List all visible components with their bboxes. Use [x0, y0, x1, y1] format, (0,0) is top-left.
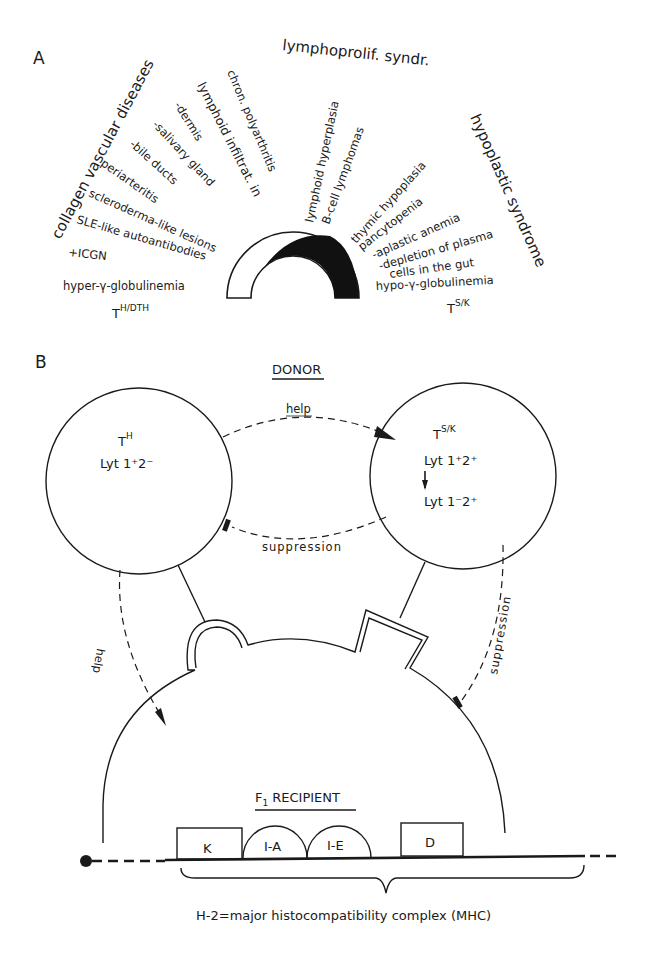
mhc-region-d: D [401, 823, 463, 856]
item-icgn: +ICGN [68, 245, 108, 263]
diagram-canvas: A collagen vascular diseases lymphoproli… [0, 0, 658, 959]
panel-a-label: A [33, 48, 45, 68]
receptor-round [195, 627, 242, 668]
tsk-cell-phenotype-2: Lyt 1⁻2⁺ [424, 494, 477, 509]
differentiation-arrow-icon [422, 471, 428, 490]
tsk-cell-phenotype-1: Lyt 1⁺2⁺ [424, 453, 477, 468]
mhc-region-i-a: I-A [243, 826, 307, 858]
svg-text:K: K [203, 841, 212, 856]
item-salivary-gland: -salivary gland [150, 117, 218, 189]
mhc-region-i-e: I-E [307, 826, 371, 858]
donor-title: DONOR [272, 362, 321, 377]
svg-text:I-A: I-A [264, 839, 281, 854]
recipient-title: F1RECIPIENT [255, 790, 340, 808]
centromere-icon [80, 855, 92, 867]
th-cell-label: TH [117, 431, 133, 449]
receptor-square [360, 618, 422, 669]
arrowhead-icon-left [155, 708, 166, 726]
th-cell-circle [46, 388, 232, 574]
item-hyper-gamma-globulinemia: hyper-γ-globulinemia [63, 279, 185, 293]
svg-text:D: D [425, 835, 435, 850]
svg-text:I-E: I-E [327, 838, 344, 853]
group-hypoplastic-syndrome: hypoplastic syndrome [466, 111, 550, 269]
help-arrow-left [120, 570, 161, 714]
th-cell-phenotype: Lyt 1⁺2⁻ [100, 456, 153, 471]
help-label-left: help [90, 647, 108, 674]
tsk-connector [400, 562, 425, 618]
tsk-cell-circle [370, 383, 556, 569]
group-lymphoprolif-syndr: lymphoprolif. syndr. [282, 36, 431, 69]
mhc-brace [181, 865, 584, 893]
suppression-label-right: suppression [486, 594, 514, 675]
help-label-top: help [286, 402, 311, 416]
mhc-caption: H-2=major histocompatibility complex (MH… [196, 908, 491, 923]
suppression-label-mid: suppression [262, 540, 342, 554]
arrowhead-icon [374, 426, 396, 440]
suppression-arrow-mid [232, 517, 386, 539]
mhc-region-k: K [177, 828, 242, 859]
help-arrow-top [223, 417, 380, 437]
cell-ts-k: TS/K [446, 298, 471, 316]
th-connector [178, 565, 205, 622]
recipient-cell-outline [103, 610, 505, 843]
tsk-cell-label: TS/K [432, 424, 457, 442]
cell-th-dth: TH/DTH [111, 303, 149, 321]
figure: A collagen vascular diseases lymphoproli… [0, 0, 658, 959]
panel-b-label: B [35, 352, 47, 372]
spectrum-arc [227, 232, 359, 298]
